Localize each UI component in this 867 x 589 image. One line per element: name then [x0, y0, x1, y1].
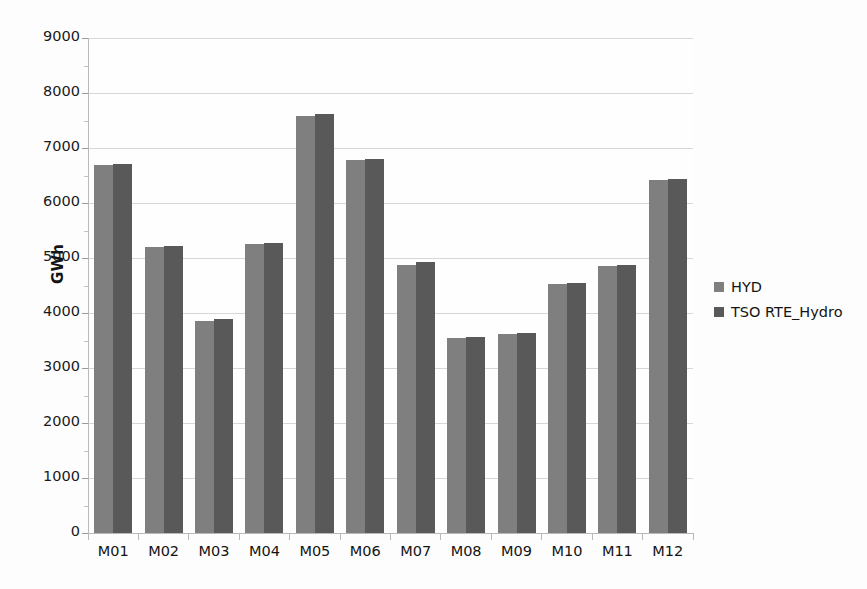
- y-axis-tick-label: 5000: [43, 248, 80, 264]
- bar-group: [138, 246, 188, 533]
- bar-group: [290, 114, 340, 533]
- legend-item-label: TSO RTE_Hydro: [731, 304, 843, 320]
- bar: [346, 160, 365, 533]
- y-axis-tick-label: 4000: [43, 303, 80, 319]
- bar-group: [391, 262, 441, 533]
- bar: [517, 333, 536, 533]
- x-axis-tick: [287, 534, 293, 540]
- x-axis-tick: [135, 534, 141, 540]
- bar: [94, 165, 113, 533]
- x-axis-tick: [640, 534, 646, 540]
- x-axis-tick-label: M03: [189, 543, 239, 559]
- x-axis-tick: [85, 534, 91, 540]
- x-axis-tick-label: M08: [441, 543, 491, 559]
- bar: [567, 283, 586, 533]
- x-axis-tick-label: M10: [542, 543, 592, 559]
- x-axis-tick: [438, 534, 444, 540]
- bar: [668, 179, 687, 533]
- bar: [214, 319, 233, 534]
- bar: [598, 266, 617, 533]
- bar: [365, 159, 384, 533]
- bar-group: [88, 164, 138, 533]
- legend-swatch-icon: [714, 282, 724, 292]
- x-axis-tick-label: M11: [592, 543, 642, 559]
- bar: [447, 338, 466, 533]
- bar: [296, 116, 315, 533]
- bar: [113, 164, 132, 533]
- x-axis-tick-labels: M01M02M03M04M05M06M07M08M09M10M11M12: [88, 534, 693, 564]
- bar: [397, 265, 416, 533]
- x-axis-tick: [589, 534, 595, 540]
- bar-chart: GWh 010002000300040005000600070008000900…: [0, 0, 867, 589]
- x-axis-tick-label: M07: [391, 543, 441, 559]
- x-axis-tick-label: M01: [88, 543, 138, 559]
- y-axis-tick-label: 9000: [43, 28, 80, 44]
- bar: [145, 247, 164, 533]
- bar-group: [239, 243, 289, 533]
- bar: [164, 246, 183, 533]
- x-axis-tick: [690, 534, 696, 540]
- bar-group: [189, 319, 239, 534]
- x-axis-tick: [488, 534, 494, 540]
- x-axis-tick-label: M09: [491, 543, 541, 559]
- bar: [466, 337, 485, 533]
- x-axis-tick-label: M06: [340, 543, 390, 559]
- y-axis-tick-label: 6000: [43, 193, 80, 209]
- y-axis-tick-label: 8000: [43, 83, 80, 99]
- bar: [416, 262, 435, 533]
- legend-item-label: HYD: [731, 279, 762, 295]
- x-axis-tick: [186, 534, 192, 540]
- bar-group: [592, 265, 642, 533]
- y-axis-tick-labels: 0100020003000400050006000700080009000: [0, 38, 80, 533]
- bar: [498, 334, 517, 533]
- x-axis-tick: [539, 534, 545, 540]
- x-axis-tick-label: M12: [643, 543, 693, 559]
- chart-legend: HYD TSO RTE_Hydro: [714, 274, 843, 324]
- bar: [315, 114, 334, 533]
- legend-swatch-icon: [714, 307, 724, 317]
- bar: [264, 243, 283, 533]
- legend-item-tso-rte-hydro: TSO RTE_Hydro: [714, 299, 843, 324]
- x-axis-tick-label: M05: [290, 543, 340, 559]
- bar: [649, 180, 668, 533]
- x-axis-tick: [337, 534, 343, 540]
- x-axis-tick-label: M02: [138, 543, 188, 559]
- x-axis-tick-label: M04: [239, 543, 289, 559]
- x-axis-tick: [236, 534, 242, 540]
- bar-group: [340, 159, 390, 533]
- y-axis-tick-label: 7000: [43, 138, 80, 154]
- y-axis-tick-label: 0: [71, 523, 80, 539]
- bar: [195, 321, 214, 533]
- bar: [548, 284, 567, 533]
- bar: [617, 265, 636, 533]
- bar-group: [491, 333, 541, 533]
- bar-group: [542, 283, 592, 533]
- y-axis-tick-label: 3000: [43, 358, 80, 374]
- y-axis-tick-label: 2000: [43, 413, 80, 429]
- x-axis-tick: [388, 534, 394, 540]
- y-axis-tick-label: 1000: [43, 468, 80, 484]
- legend-item-hyd: HYD: [714, 274, 843, 299]
- bar-group: [441, 337, 491, 533]
- bars-layer: [88, 38, 693, 533]
- bar-group: [643, 179, 693, 533]
- bar: [245, 244, 264, 533]
